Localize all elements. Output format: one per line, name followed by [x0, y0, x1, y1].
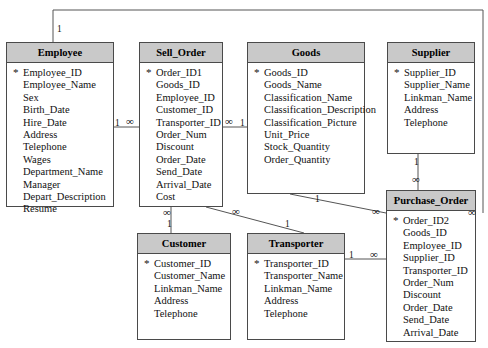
primary-key-attribute-supplier[interactable]: Supplier_ID: [388, 67, 474, 79]
attribute-employee[interactable]: Wages: [7, 154, 113, 166]
attribute-list-customer: Customer_IDCustomer_NameLinkman_NameAddr…: [138, 254, 230, 323]
entity-title-purchase_order: Purchase_Order: [387, 191, 475, 211]
attribute-transporter[interactable]: Transporter_Name: [248, 270, 344, 282]
entity-title-employee: Employee: [7, 43, 113, 63]
attribute-sell_order[interactable]: Employee_ID: [140, 92, 222, 104]
primary-key-attribute-customer[interactable]: Customer_ID: [138, 258, 230, 270]
attribute-sell_order[interactable]: Order_Num: [140, 129, 222, 141]
attribute-transporter[interactable]: Linkman_Name: [248, 283, 344, 295]
attribute-sell_order[interactable]: Customer_ID: [140, 104, 222, 116]
attribute-supplier[interactable]: Telephone: [388, 117, 474, 129]
attribute-goods[interactable]: Classification_Picture: [248, 117, 364, 129]
cardinality-label-employee-purchase_order-to: ∞: [468, 207, 476, 217]
attribute-employee[interactable]: Depart_Description: [7, 191, 113, 203]
cardinality-label-goods-purchase_order-to: ∞: [372, 206, 380, 216]
cardinality-label-goods-purchase_order-from: 1: [315, 194, 320, 204]
attribute-supplier[interactable]: Linkman_Name: [388, 92, 474, 104]
cardinality-label-sell_order-transporter-from: ∞: [232, 206, 240, 216]
cardinality-label-employee-purchase_order-from: 1: [57, 24, 62, 34]
cardinality-label-sell_order-transporter-to: 1: [285, 219, 290, 229]
attribute-employee[interactable]: Employee_Name: [7, 79, 113, 91]
attribute-purchase_order[interactable]: Employee_ID: [387, 240, 475, 252]
cardinality-label-sell_order-customer-to: 1: [167, 219, 172, 229]
attribute-employee[interactable]: Hire_Date: [7, 117, 113, 129]
entity-purchase_order[interactable]: Purchase_OrderOrder_ID2Goods_IDEmployee_…: [386, 190, 476, 342]
attribute-employee[interactable]: Department_Name: [7, 166, 113, 178]
primary-key-attribute-goods[interactable]: Goods_ID: [248, 67, 364, 79]
attribute-employee[interactable]: Resume: [7, 203, 113, 215]
attribute-list-supplier: Supplier_IDSupplier_NameLinkman_NameAddr…: [388, 63, 474, 132]
entity-sell_order[interactable]: Sell_OrderOrder_ID1Goods_IDEmployee_IDCu…: [139, 42, 223, 207]
cardinality-label-sell_order-customer-from: ∞: [163, 207, 171, 217]
attribute-purchase_order[interactable]: Send_Date: [387, 314, 475, 326]
attribute-customer[interactable]: Linkman_Name: [138, 283, 230, 295]
entity-transporter[interactable]: TransporterTransporter_IDTransporter_Nam…: [247, 233, 345, 340]
attribute-supplier[interactable]: Supplier_Name: [388, 79, 474, 91]
attribute-list-sell_order: Order_ID1Goods_IDEmployee_IDCustomer_IDT…: [140, 63, 222, 206]
entity-customer[interactable]: CustomerCustomer_IDCustomer_NameLinkman_…: [137, 233, 231, 340]
cardinality-label-transporter-purchase_order-to: ∞: [370, 249, 378, 259]
attribute-employee[interactable]: Manager: [7, 179, 113, 191]
attribute-list-employee: Employee_IDEmployee_NameSexBirth_DateHir…: [7, 63, 113, 219]
attribute-list-transporter: Transporter_IDTransporter_NameLinkman_Na…: [248, 254, 344, 323]
attribute-goods[interactable]: Order_Quantity: [248, 154, 364, 166]
attribute-goods[interactable]: Classification_Name: [248, 92, 364, 104]
attribute-purchase_order[interactable]: Transporter_ID: [387, 265, 475, 277]
entity-supplier[interactable]: SupplierSupplier_IDSupplier_NameLinkman_…: [387, 42, 475, 154]
attribute-employee[interactable]: Telephone: [7, 141, 113, 153]
attribute-purchase_order[interactable]: Supplier_ID: [387, 252, 475, 264]
attribute-purchase_order[interactable]: Arrival_Date: [387, 327, 475, 339]
cardinality-label-sell_order-goods-from: ∞: [225, 116, 233, 126]
entity-goods[interactable]: GoodsGoods_IDGoods_NameClassification_Na…: [247, 42, 365, 194]
attribute-purchase_order[interactable]: Order_Num: [387, 277, 475, 289]
attribute-employee[interactable]: Sex: [7, 92, 113, 104]
attribute-customer[interactable]: Customer_Name: [138, 270, 230, 282]
entity-title-goods: Goods: [248, 43, 364, 63]
attribute-purchase_order[interactable]: Order_Date: [387, 302, 475, 314]
primary-key-attribute-transporter[interactable]: Transporter_ID: [248, 258, 344, 270]
primary-key-attribute-employee[interactable]: Employee_ID: [7, 67, 113, 79]
attribute-list-purchase_order: Order_ID2Goods_IDEmployee_IDSupplier_IDT…: [387, 211, 475, 342]
attribute-customer[interactable]: Telephone: [138, 308, 230, 320]
attribute-sell_order[interactable]: Cost: [140, 191, 222, 203]
attribute-employee[interactable]: Address: [7, 129, 113, 141]
entity-title-supplier: Supplier: [388, 43, 474, 63]
attribute-sell_order[interactable]: Arrival_Date: [140, 179, 222, 191]
attribute-transporter[interactable]: Telephone: [248, 308, 344, 320]
attribute-list-goods: Goods_IDGoods_NameClassification_NameCla…: [248, 63, 364, 169]
attribute-sell_order[interactable]: Order_Date: [140, 154, 222, 166]
entity-title-sell_order: Sell_Order: [140, 43, 222, 63]
attribute-goods[interactable]: Classification_Description: [248, 104, 364, 116]
attribute-goods[interactable]: Stock_Quantity: [248, 141, 364, 153]
attribute-transporter[interactable]: Address: [248, 295, 344, 307]
er-diagram-canvas: 1∞1∞∞1∞1∞11∞1∞1∞EmployeeEmployee_IDEmplo…: [0, 0, 488, 348]
attribute-goods[interactable]: Goods_Name: [248, 79, 364, 91]
primary-key-attribute-purchase_order[interactable]: Order_ID2: [387, 215, 475, 227]
attribute-sell_order[interactable]: Discount: [140, 141, 222, 153]
cardinality-label-employee-sell_order-from: 1: [115, 118, 120, 128]
cardinality-label-sell_order-goods-to: 1: [240, 118, 245, 128]
cardinality-label-supplier-purchase_order-to: ∞: [412, 174, 420, 184]
attribute-purchase_order[interactable]: Discount: [387, 289, 475, 301]
attribute-sell_order[interactable]: Goods_ID: [140, 79, 222, 91]
attribute-sell_order[interactable]: Transporter_ID: [140, 117, 222, 129]
primary-key-attribute-sell_order[interactable]: Order_ID1: [140, 67, 222, 79]
cardinality-label-transporter-purchase_order-from: 1: [349, 250, 354, 260]
attribute-goods[interactable]: Unit_Price: [248, 129, 364, 141]
attribute-purchase_order[interactable]: Goods_ID: [387, 227, 475, 239]
entity-title-transporter: Transporter: [248, 234, 344, 254]
cardinality-label-supplier-purchase_order-from: 1: [414, 157, 419, 167]
entity-title-customer: Customer: [138, 234, 230, 254]
attribute-employee[interactable]: Birth_Date: [7, 104, 113, 116]
attribute-supplier[interactable]: Address: [388, 104, 474, 116]
attribute-sell_order[interactable]: Send_Date: [140, 166, 222, 178]
cardinality-label-employee-sell_order-to: ∞: [126, 116, 134, 126]
attribute-customer[interactable]: Address: [138, 295, 230, 307]
entity-employee[interactable]: EmployeeEmployee_IDEmployee_NameSexBirth…: [6, 42, 114, 207]
